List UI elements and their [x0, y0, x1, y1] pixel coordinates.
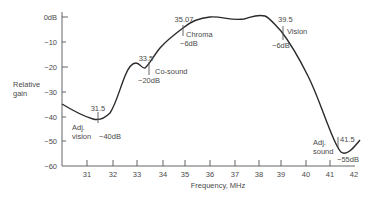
x-tick-label: 39 [277, 170, 285, 179]
svg-text:31.5: 31.5 [91, 104, 106, 113]
svg-text:−55dB: −55dB [337, 155, 359, 164]
svg-text:Adj.: Adj. [313, 138, 326, 147]
y-tick-label: −30 [44, 88, 57, 97]
svg-text:Co-sound: Co-sound [155, 67, 188, 76]
svg-text:39.5: 39.5 [278, 15, 293, 24]
x-tick-label: 31 [83, 170, 91, 179]
y-tick-labels: 0dB −10 −20 −30 −40 −50 −60 [44, 13, 57, 171]
svg-text:−6dB: −6dB [180, 39, 198, 48]
annotation-adj-vision: 31.5 Adj. vision −40dB [72, 104, 121, 141]
x-tick-label: 38 [255, 170, 263, 179]
svg-text:41.5: 41.5 [340, 135, 355, 144]
x-tick-label: 36 [206, 170, 214, 179]
svg-text:Chroma: Chroma [186, 30, 214, 39]
svg-text:−6dB: −6dB [272, 41, 290, 50]
svg-text:−20dB: −20dB [138, 76, 160, 85]
x-tick-label: 34 [159, 170, 167, 179]
x-tick-label: 40 [302, 170, 310, 179]
annotation-vision: 39.5 Vision −6dB [272, 15, 307, 50]
svg-text:Adj.: Adj. [72, 123, 85, 132]
x-tick-label: 33 [133, 170, 141, 179]
svg-text:35.07: 35.07 [175, 15, 194, 24]
annotation-chroma: 35.07 Chroma −6dB [175, 15, 214, 48]
y-tick-label: −20 [44, 63, 57, 72]
x-tick-label: 42 [350, 170, 358, 179]
x-tick-label: 41 [326, 170, 334, 179]
y-tick-label: 0dB [44, 13, 57, 22]
y-tick-label: −60 [44, 162, 57, 171]
svg-text:33.5: 33.5 [139, 54, 154, 63]
svg-text:Vision: Vision [287, 27, 307, 36]
svg-text:−40dB: −40dB [99, 132, 121, 141]
y-tick-label: −40 [44, 113, 57, 122]
x-axis-title: Frequency, MHz [191, 181, 246, 190]
y-tick-label: −50 [44, 137, 57, 146]
x-tick-labels: 31 32 33 34 35 36 37 38 39 40 41 42 [83, 170, 358, 179]
annotation-co-sound: 33.5 Co-sound −20dB [138, 54, 188, 85]
gain-chart: 0dB −10 −20 −30 −40 −50 −60 Relative gai… [0, 0, 371, 198]
y-tick-label: −10 [44, 38, 57, 47]
x-tick-label: 32 [109, 170, 117, 179]
svg-text:sound: sound [313, 147, 333, 156]
y-axis-title: Relative [13, 80, 40, 89]
x-tick-label: 37 [231, 170, 239, 179]
svg-text:vision: vision [72, 132, 91, 141]
x-tick-label: 35 [181, 170, 189, 179]
y-axis-title: gain [13, 89, 27, 98]
